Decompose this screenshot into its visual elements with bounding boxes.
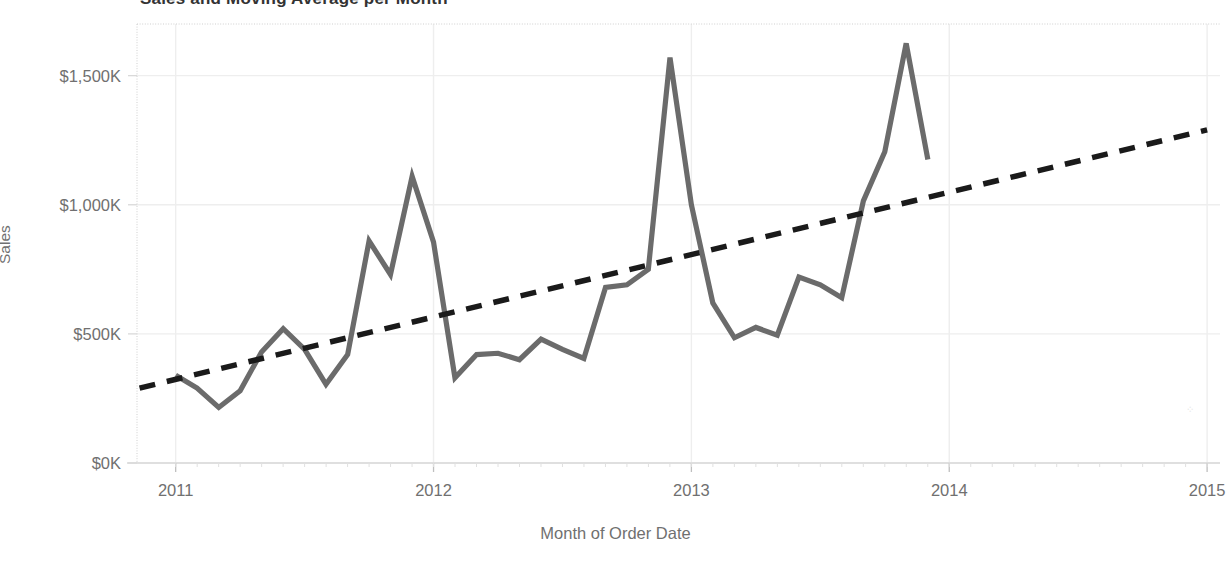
x-axis-tick-label: 2013 bbox=[673, 481, 710, 500]
x-axis-title: Month of Order Date bbox=[0, 524, 1231, 543]
y-axis-tick-label: $1,000K bbox=[0, 195, 121, 214]
y-axis-tick-label: $0K bbox=[0, 454, 121, 473]
sales-line-chart: Sales and Moving Average per Month $0K$5… bbox=[0, 0, 1231, 569]
y-axis-tick-label: $1,500K bbox=[0, 66, 121, 85]
x-axis-tick-label: 2011 bbox=[158, 481, 193, 500]
y-axis-tick-label: $500K bbox=[0, 324, 121, 343]
x-axis-tick-label: 2014 bbox=[931, 481, 968, 500]
gridlines-group bbox=[137, 24, 1220, 463]
trend-line bbox=[140, 130, 1208, 388]
background-artifact: ⁘ bbox=[1186, 404, 1195, 415]
y-axis-title: Sales bbox=[0, 225, 14, 264]
data-series-group bbox=[140, 43, 1208, 407]
x-axis-tick-label: 2012 bbox=[415, 481, 452, 500]
x-axis-tick-label: 2015 bbox=[1189, 481, 1226, 500]
tick-marks-group bbox=[128, 76, 1207, 472]
